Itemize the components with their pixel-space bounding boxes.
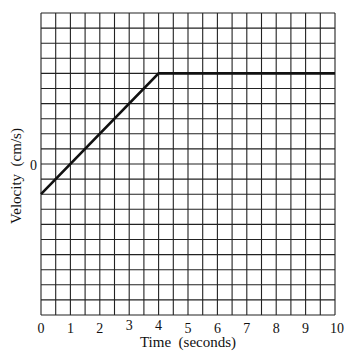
x-tick-label: 2 bbox=[96, 322, 103, 336]
grid-lines bbox=[41, 13, 335, 315]
x-tick-label: 7 bbox=[243, 322, 250, 336]
x-tick-label: 9 bbox=[302, 322, 309, 336]
x-tick-label: 0 bbox=[38, 322, 45, 336]
y-tick-zero: 0 bbox=[30, 159, 37, 173]
x-axis-title: Time (seconds) bbox=[140, 335, 236, 350]
x-tick-label: 10 bbox=[330, 322, 344, 336]
y-axis-title: Velocity (cm/s) bbox=[9, 128, 24, 224]
x-tick-label: 1 bbox=[67, 322, 74, 336]
x-tick-label: 4 bbox=[155, 319, 162, 333]
plot-area bbox=[0, 0, 347, 358]
x-tick-label: 8 bbox=[273, 322, 280, 336]
x-tick-label: 3 bbox=[126, 319, 133, 333]
velocity-time-chart: 012345678910 0 Time (seconds) Velocity (… bbox=[0, 0, 347, 358]
